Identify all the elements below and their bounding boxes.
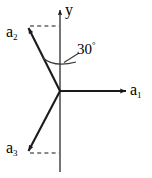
vector-a2-label: a2 (6, 24, 18, 40)
vector-a3-arrow (29, 91, 61, 151)
vector-a3-label-subscript: 3 (13, 148, 18, 158)
angle-label: 30° (77, 42, 96, 57)
y-axis-label: y (65, 2, 73, 18)
dashed-guides (30, 26, 59, 153)
vector-a1-label: a1 (130, 82, 142, 98)
vector-diagram: a1 a2 a3 y 30° (0, 0, 152, 178)
angle-annotation (43, 53, 80, 64)
vector-a1-label-subscript: 1 (137, 90, 142, 100)
angle-label-value: 30 (77, 41, 92, 57)
vector-a2-label-subscript: 2 (13, 32, 18, 42)
degree-icon: ° (92, 40, 96, 50)
vector-a3-label: a3 (6, 140, 18, 156)
